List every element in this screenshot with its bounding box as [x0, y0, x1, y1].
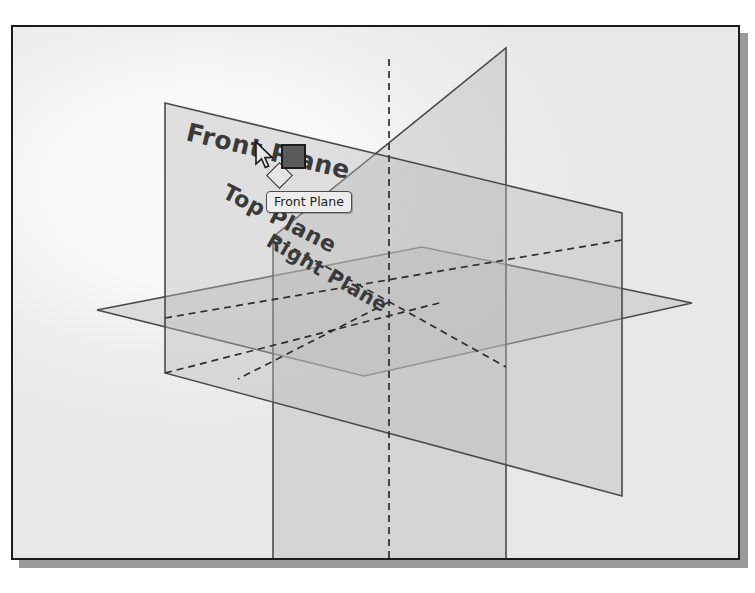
- figure-frame: Front Plane Top Plane Right Plane Front …: [11, 25, 740, 560]
- selected-face-square-icon[interactable]: [281, 144, 306, 169]
- reference-planes-scene: Front Plane Top Plane Right Plane: [13, 27, 740, 560]
- plane-hover-tooltip: Front Plane: [266, 191, 352, 213]
- arrow-pointer-icon: [255, 141, 275, 171]
